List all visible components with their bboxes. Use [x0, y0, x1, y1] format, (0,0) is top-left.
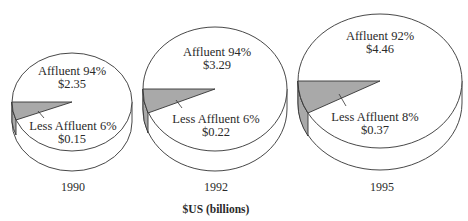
pie-1995-affluent-label: Affluent 92%	[346, 29, 414, 43]
pie-1990-affluent-label: Affluent 94%	[38, 64, 106, 78]
pie-1992-affluent-value: $3.29	[203, 58, 231, 72]
pie-1992-less-affluent-value: $0.22	[202, 125, 230, 139]
unit-caption: $US (billions)	[183, 203, 250, 216]
year-label-1992: 1992	[204, 180, 228, 194]
pie-1995-affluent-value: $4.46	[366, 42, 394, 56]
pie-1990-less-affluent-label: Less Affluent 6%	[29, 119, 116, 133]
pie-1992-less-affluent-label: Less Affluent 6%	[172, 112, 259, 126]
year-label-1995: 1995	[370, 180, 394, 194]
pie-1995-less-affluent-value: $0.37	[361, 123, 389, 137]
pie-1995-less-affluent-label: Less Affluent 8%	[331, 110, 418, 124]
pie-1992-affluent-label: Affluent 94%	[183, 45, 251, 59]
pie-1990-affluent-value: $2.35	[58, 77, 86, 91]
pie-chart-figure: Affluent 94% $2.35 Less Affluent 6% $0.1…	[0, 0, 468, 221]
pie-1990-less-affluent-value: $0.15	[58, 132, 86, 146]
year-label-1990: 1990	[61, 180, 85, 194]
